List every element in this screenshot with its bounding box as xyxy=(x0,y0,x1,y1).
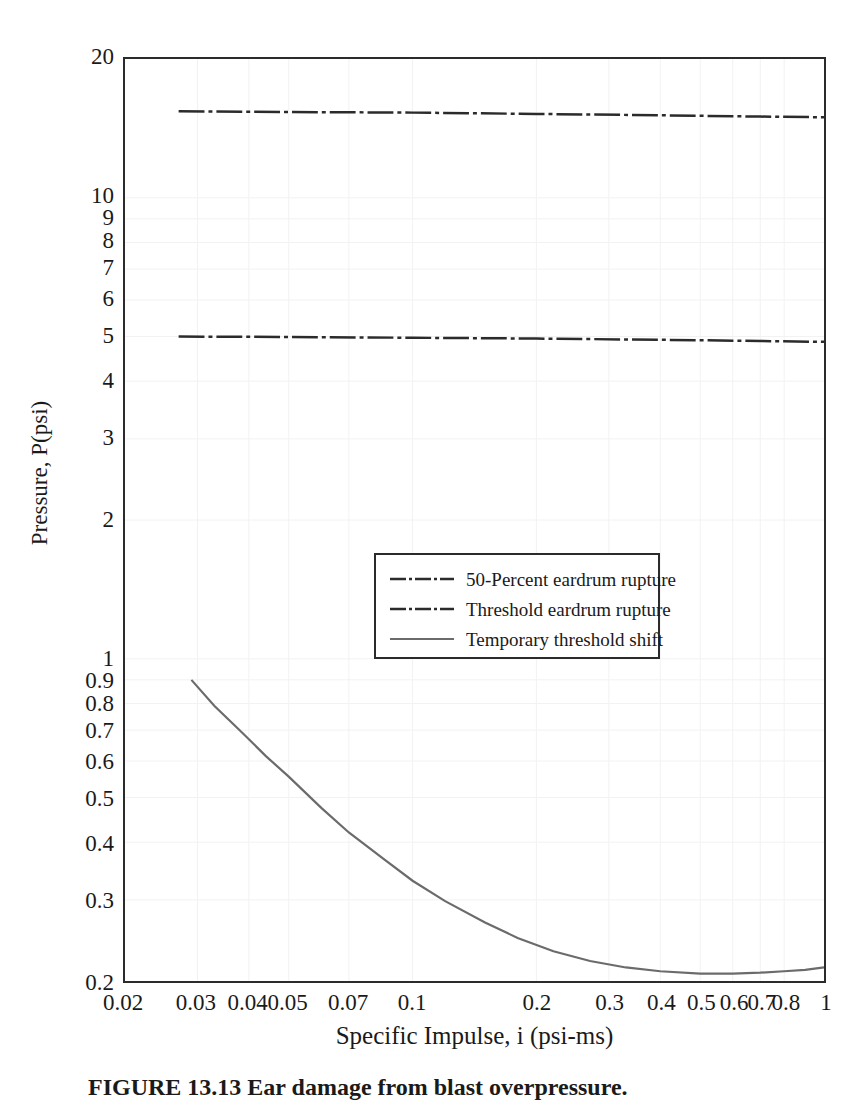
y-tick-label: 0.4 xyxy=(0,832,114,855)
legend-swatch-dash-dot xyxy=(390,573,454,585)
y-tick-label: 3 xyxy=(0,426,114,449)
y-tick-label: 0.9 xyxy=(0,669,114,692)
x-tick-label: 0.1 xyxy=(372,990,452,1016)
legend-label: Temporary threshold shift xyxy=(466,630,663,649)
y-tick-label: 1 xyxy=(0,647,114,670)
y-tick-label: 2 xyxy=(0,508,114,531)
legend-swatch-dash-dot xyxy=(390,603,454,615)
y-tick-label: 0.6 xyxy=(0,750,114,773)
y-tick-label: 20 xyxy=(0,45,114,68)
y-tick-label: 0.8 xyxy=(0,692,114,715)
x-tick-label: 0.02 xyxy=(83,990,163,1016)
x-tick-label: 1 xyxy=(786,990,865,1016)
x-tick-label: 0.2 xyxy=(497,990,577,1016)
series-line xyxy=(179,337,824,342)
legend-swatch-solid xyxy=(390,633,454,645)
series-line xyxy=(179,111,824,117)
legend-label: Threshold eardrum rupture xyxy=(466,600,671,619)
data-series-layer xyxy=(125,59,824,981)
y-tick-label: 0.7 xyxy=(0,719,114,742)
chart-legend: 50-Percent eardrum rupture Threshold ear… xyxy=(374,553,660,659)
series-line xyxy=(191,680,824,974)
y-tick-label: 6 xyxy=(0,287,114,310)
legend-label: 50-Percent eardrum rupture xyxy=(466,570,676,589)
y-tick-label: 0.5 xyxy=(0,787,114,810)
y-tick-label: 8 xyxy=(0,229,114,252)
legend-item: Temporary threshold shift xyxy=(376,624,658,654)
figure-caption: FIGURE 13.13 Ear damage from blast overp… xyxy=(88,1074,788,1101)
y-tick-label: 4 xyxy=(0,369,114,392)
plot-area xyxy=(123,57,826,983)
y-tick-label: 5 xyxy=(0,324,114,347)
x-axis-title: Specific Impulse, i (psi-ms) xyxy=(123,1022,826,1050)
legend-item: Threshold eardrum rupture xyxy=(376,594,658,624)
y-tick-label: 7 xyxy=(0,256,114,279)
y-tick-label: 9 xyxy=(0,206,114,229)
legend-item: 50-Percent eardrum rupture xyxy=(376,564,658,594)
y-tick-label: 0.3 xyxy=(0,889,114,912)
y-tick-label: 10 xyxy=(0,184,114,207)
